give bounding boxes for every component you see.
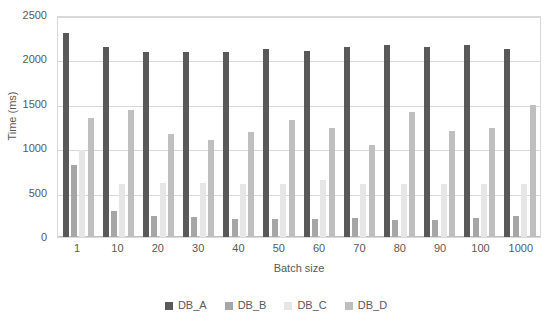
- bars-layer: [58, 17, 540, 237]
- x-axis-tick-label: 30: [178, 241, 218, 257]
- bar-db_b: [232, 219, 238, 237]
- bar-db_d: [449, 131, 455, 237]
- bar-group: [339, 17, 379, 237]
- bar-db_c: [401, 184, 407, 237]
- bar-chart: Time (ms) 25002000150010005000 110203040…: [0, 0, 552, 326]
- bar-group: [259, 17, 299, 237]
- bar-db_b: [513, 216, 519, 237]
- x-axis-tick-label: 10: [97, 241, 137, 257]
- bar-group: [299, 17, 339, 237]
- bar-db_d: [88, 118, 94, 237]
- bar-db_c: [360, 184, 366, 237]
- bar-db_d: [248, 132, 254, 237]
- bar-group: [179, 17, 219, 237]
- bar-db_d: [530, 105, 536, 237]
- bar-db_b: [312, 219, 318, 237]
- bar-db_c: [119, 184, 125, 237]
- bar-db_a: [63, 33, 69, 237]
- bar-db_c: [320, 180, 326, 237]
- bar-db_c: [521, 184, 527, 237]
- bar-db_a: [263, 49, 269, 237]
- legend-swatch-icon: [225, 302, 233, 310]
- bar-db_d: [128, 110, 134, 237]
- x-axis-tick-label: 90: [420, 241, 460, 257]
- legend-item-db_d[interactable]: DB_D: [345, 300, 387, 311]
- bar-group: [138, 17, 178, 237]
- bar-db_b: [191, 217, 197, 237]
- bar-group: [500, 17, 540, 237]
- bar-db_c: [481, 184, 487, 237]
- bar-db_a: [223, 52, 229, 237]
- bar-db_a: [504, 49, 510, 237]
- legend-label: DB_B: [238, 300, 267, 311]
- y-axis-tick-label: 1000: [0, 143, 53, 154]
- bar-db_b: [352, 218, 358, 237]
- bar-db_c: [200, 183, 206, 237]
- x-axis-tick-label: 40: [218, 241, 258, 257]
- legend-label: DB_C: [297, 300, 326, 311]
- bar-db_b: [71, 165, 77, 237]
- x-axis-tick-label: 1: [57, 241, 97, 257]
- bar-db_c: [280, 184, 286, 237]
- y-axis-tick-labels: 25002000150010005000: [0, 0, 53, 260]
- bar-db_d: [289, 120, 295, 237]
- bar-group: [219, 17, 259, 237]
- bar-db_d: [369, 145, 375, 237]
- bar-db_a: [183, 52, 189, 237]
- y-axis-tick-label: 1500: [0, 99, 53, 110]
- bar-db_d: [409, 112, 415, 237]
- bar-db_c: [79, 150, 85, 237]
- bar-db_c: [160, 183, 166, 237]
- y-axis-tick-label: 2500: [0, 10, 53, 21]
- x-axis-tick-label: 20: [138, 241, 178, 257]
- x-axis-tick-label: 50: [259, 241, 299, 257]
- legend-label: DB_A: [178, 300, 207, 311]
- bar-db_d: [168, 134, 174, 237]
- bar-db_a: [384, 45, 390, 237]
- x-axis-tick-label: 80: [380, 241, 420, 257]
- legend-label: DB_D: [358, 300, 387, 311]
- y-axis-tick-label: 0: [0, 232, 53, 243]
- legend-swatch-icon: [165, 302, 173, 310]
- bar-group: [420, 17, 460, 237]
- x-axis-title: Batch size: [57, 262, 541, 274]
- y-axis-tick-label: 2000: [0, 54, 53, 65]
- bar-db_b: [392, 220, 398, 237]
- legend-swatch-icon: [284, 302, 292, 310]
- bar-db_b: [473, 218, 479, 237]
- bar-db_b: [272, 219, 278, 237]
- plot-area: [57, 16, 541, 238]
- bar-group: [460, 17, 500, 237]
- bar-db_d: [489, 128, 495, 237]
- bar-db_a: [424, 47, 430, 237]
- bar-db_c: [441, 184, 447, 237]
- bar-group: [379, 17, 419, 237]
- x-axis-tick-label: 70: [339, 241, 379, 257]
- legend-item-db_b[interactable]: DB_B: [225, 300, 267, 311]
- bar-db_b: [111, 211, 117, 237]
- bar-db_c: [240, 184, 246, 237]
- bar-db_d: [329, 128, 335, 237]
- x-axis-tick-label: 60: [299, 241, 339, 257]
- bar-db_d: [208, 140, 214, 237]
- bar-group: [98, 17, 138, 237]
- x-axis-tick-labels: 11020304050607080901001000: [57, 241, 541, 257]
- x-axis-tick-label: 100: [460, 241, 500, 257]
- bar-db_a: [344, 47, 350, 237]
- bar-db_a: [103, 47, 109, 237]
- chart-legend: DB_ADB_BDB_CDB_D: [0, 300, 552, 311]
- bar-db_a: [464, 45, 470, 237]
- legend-item-db_c[interactable]: DB_C: [284, 300, 326, 311]
- bar-db_b: [151, 216, 157, 237]
- legend-swatch-icon: [345, 302, 353, 310]
- bar-db_b: [432, 220, 438, 237]
- bar-db_a: [143, 52, 149, 237]
- bar-group: [58, 17, 98, 237]
- x-axis-tick-label: 1000: [501, 241, 541, 257]
- bar-db_a: [304, 51, 310, 237]
- legend-item-db_a[interactable]: DB_A: [165, 300, 207, 311]
- y-axis-tick-label: 500: [0, 188, 53, 199]
